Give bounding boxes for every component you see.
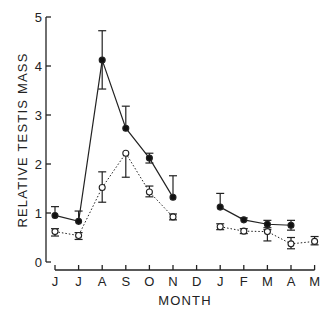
open-circle-marker (288, 241, 294, 247)
open-circle-marker (146, 189, 152, 195)
x-tick-label: J (52, 274, 59, 289)
open-circle-marker (217, 224, 223, 230)
x-tick-label: A (287, 274, 296, 289)
x-tick-label: N (168, 274, 177, 289)
x-tick-label: J (75, 274, 82, 289)
open-circle-marker (241, 228, 247, 234)
open-series-line (55, 153, 173, 235)
x-tick-label: D (192, 274, 201, 289)
y-tick-label: 4 (35, 59, 42, 74)
y-tick-label: 1 (35, 206, 42, 221)
filled-circle-marker (241, 217, 247, 223)
x-tick-label: S (121, 274, 130, 289)
filled-circle-marker (146, 155, 152, 161)
filled-series-line (220, 207, 291, 225)
x-tick-label: F (240, 274, 248, 289)
y-axis-label: RELATIVE TESTIS MASS (15, 52, 30, 227)
x-tick-label: O (144, 274, 154, 289)
filled-series-line (55, 60, 173, 221)
open-circle-marker (123, 150, 129, 156)
y-tick-label: 5 (35, 10, 42, 25)
chart-area: 012345JJASONDJFMAM RELATIVE TESTIS MASS … (0, 0, 332, 317)
plot-svg: 012345JJASONDJFMAM (0, 0, 332, 317)
open-circle-marker (264, 229, 270, 235)
x-tick-label: A (98, 274, 107, 289)
x-axis-label: MONTH (158, 293, 212, 308)
x-tick-label: M (262, 274, 273, 289)
filled-circle-marker (170, 194, 176, 200)
filled-circle-marker (99, 57, 105, 63)
filled-circle-marker (76, 218, 82, 224)
filled-circle-marker (217, 204, 223, 210)
y-tick-label: 0 (35, 255, 42, 270)
filled-circle-marker (123, 125, 129, 131)
open-circle-marker (76, 233, 82, 239)
x-tick-label: M (309, 274, 320, 289)
filled-circle-marker (264, 221, 270, 227)
filled-circle-marker (288, 222, 294, 228)
open-circle-marker (99, 185, 105, 191)
open-circle-marker (52, 229, 58, 235)
y-tick-label: 2 (35, 157, 42, 172)
open-circle-marker (170, 214, 176, 220)
filled-circle-marker (52, 212, 58, 218)
open-circle-marker (312, 238, 318, 244)
x-tick-label: J (217, 274, 224, 289)
y-tick-label: 3 (35, 108, 42, 123)
